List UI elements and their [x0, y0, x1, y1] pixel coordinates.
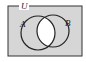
venn-svg: U A B [0, 0, 86, 62]
venn-diagram: U A B [0, 0, 86, 62]
universe-label: U [21, 1, 28, 11]
set-b-label: B [65, 18, 71, 28]
set-a-label: A [19, 19, 26, 29]
